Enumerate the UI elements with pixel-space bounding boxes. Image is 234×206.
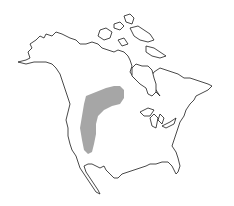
great-lakes [140,108,176,128]
hudson-bay [132,64,156,96]
range-shaded-area [80,86,124,154]
arctic-islands [98,14,166,58]
range-map [0,0,234,206]
mainland-coastline [18,32,212,194]
north-america-map [0,0,234,206]
